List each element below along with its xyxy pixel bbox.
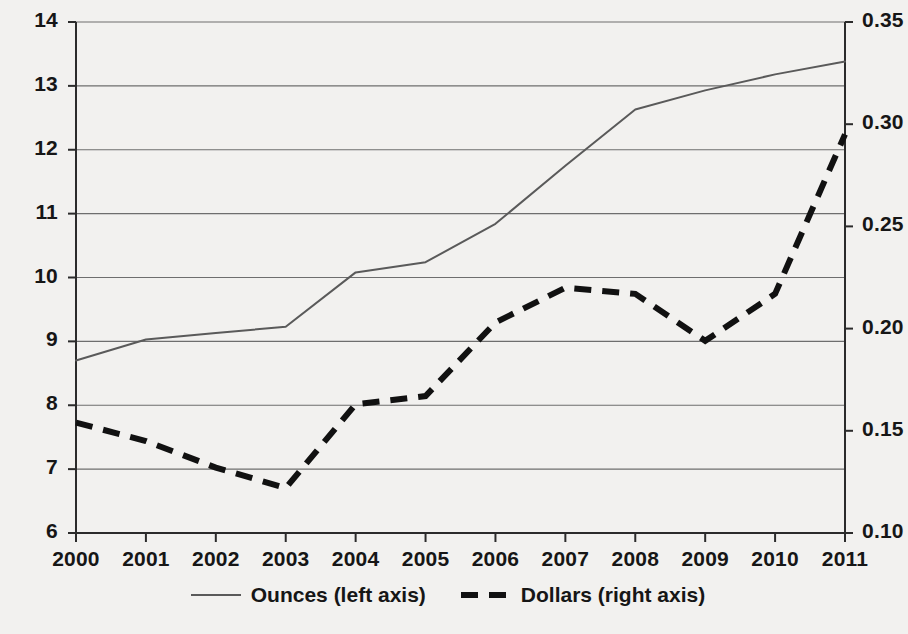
x-axis-tick-label: 2006 (460, 547, 530, 571)
left-axis-tick-label: 7 (14, 455, 58, 479)
x-axis-tick-label: 2000 (41, 547, 111, 571)
legend-item-ounces[interactable]: Ounces (left axis) (190, 583, 426, 607)
left-axis-tick-label: 14 (14, 8, 58, 32)
x-axis-tick-label: 2004 (321, 547, 391, 571)
left-axis-tick-label: 9 (14, 327, 58, 351)
left-axis-tick-label: 6 (14, 519, 58, 543)
x-axis-tick-label: 2002 (181, 547, 251, 571)
x-axis-tick-label: 2001 (111, 547, 181, 571)
right-axis-tick-label: 0.30 (862, 110, 908, 134)
chart-legend: Ounces (left axis)Dollars (right axis) (0, 583, 895, 607)
right-axis-tick-label: 0.10 (862, 519, 908, 543)
left-axis-tick-label: 13 (14, 72, 58, 96)
legend-label: Dollars (right axis) (521, 583, 705, 607)
right-axis-tick-label: 0.20 (862, 315, 908, 339)
legend-item-dollars[interactable]: Dollars (right axis) (460, 583, 705, 607)
dashed-line-icon (460, 588, 512, 602)
right-axis-tick-label: 0.15 (862, 417, 908, 441)
x-axis-tick-label: 2007 (530, 547, 600, 571)
left-axis-tick-label: 11 (14, 200, 58, 224)
left-axis-tick-label: 8 (14, 391, 58, 415)
right-axis-tick-label: 0.25 (862, 212, 908, 236)
x-axis-tick-label: 2010 (740, 547, 810, 571)
left-axis-tick-label: 10 (14, 264, 58, 288)
x-axis-tick-label: 2009 (670, 547, 740, 571)
legend-label: Ounces (left axis) (251, 583, 426, 607)
right-axis-tick-label: 0.35 (862, 8, 908, 32)
left-axis-tick-label: 12 (14, 136, 58, 160)
x-axis-tick-label: 2011 (810, 547, 880, 571)
x-axis-tick-label: 2008 (600, 547, 670, 571)
solid-line-icon (190, 588, 242, 602)
x-axis-tick-label: 2005 (391, 547, 461, 571)
x-axis-tick-label: 2003 (251, 547, 321, 571)
